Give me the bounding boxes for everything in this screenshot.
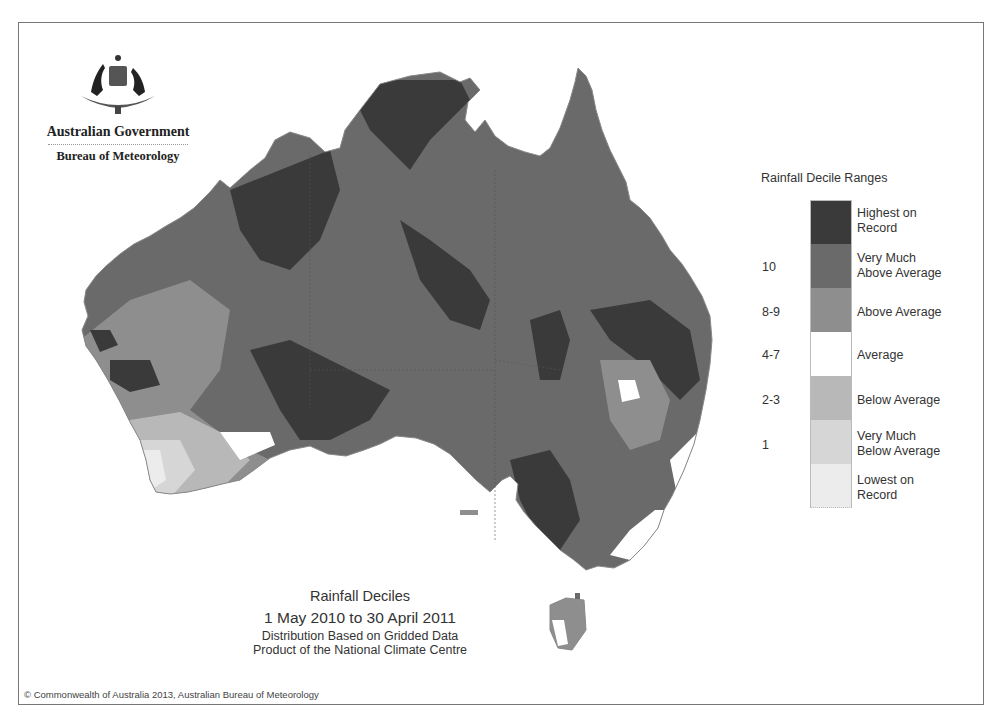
legend-label-below: Below Average (857, 393, 967, 408)
map-titles: Rainfall Deciles 1 May 2010 to 30 April … (230, 588, 490, 657)
legend-label-above: Above Average (857, 305, 967, 320)
legend-swatch-above (810, 288, 852, 332)
legend-swatch-below (810, 376, 852, 420)
legend-swatch-highest (810, 200, 852, 244)
legend-label-lowest: Lowest onRecord (857, 473, 967, 503)
legend-range-10: 10 (762, 260, 802, 274)
legend-range-1: 1 (762, 438, 802, 452)
map-period: 1 May 2010 to 30 April 2011 (230, 609, 490, 627)
legend-swatch-lowest (810, 464, 852, 508)
legend-label-very-much-above: Very MuchAbove Average (857, 251, 967, 281)
copyright-notice: © Commonwealth of Australia 2013, Austra… (24, 689, 319, 700)
legend-swatch-very-much-above (810, 244, 852, 288)
legend-range-2-3: 2-3 (762, 393, 802, 407)
map-subtitle-1: Distribution Based on Gridded Data (230, 629, 490, 643)
map-title: Rainfall Deciles (230, 588, 490, 604)
legend-label-highest: Highest onRecord (857, 206, 967, 236)
legend-title: Rainfall Decile Ranges (761, 171, 887, 185)
australia-rainfall-map (70, 40, 750, 680)
legend-range-8-9: 8-9 (762, 305, 802, 319)
map-subtitle-2: Product of the National Climate Centre (230, 643, 490, 657)
legend-label-average: Average (857, 348, 967, 363)
legend-swatch-average (810, 332, 852, 376)
legend-label-very-much-below: Very MuchBelow Average (857, 429, 967, 459)
legend-range-4-7: 4-7 (762, 348, 802, 362)
legend-swatch-very-much-below (810, 420, 852, 464)
